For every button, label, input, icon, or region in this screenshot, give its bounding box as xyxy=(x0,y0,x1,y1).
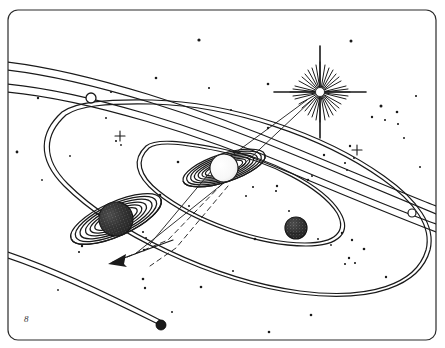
star-dot xyxy=(267,127,269,129)
star-dot xyxy=(37,97,39,99)
star-dot xyxy=(200,286,203,289)
star-dot xyxy=(288,210,290,212)
star-dot xyxy=(142,278,145,281)
star-dot xyxy=(245,195,247,197)
star-dot xyxy=(310,314,313,317)
star-dot xyxy=(171,311,173,313)
star-dot xyxy=(120,144,122,146)
star-dot xyxy=(396,111,399,114)
star-dot xyxy=(267,83,270,86)
star-dot xyxy=(351,239,353,241)
star-dot xyxy=(415,95,417,97)
star-dot xyxy=(254,238,257,241)
star-dot xyxy=(142,231,144,233)
star-dot xyxy=(177,161,180,164)
star-dot xyxy=(143,249,145,251)
star-dot xyxy=(155,77,158,80)
star-dot xyxy=(69,155,71,157)
star-dot xyxy=(346,169,348,171)
star-dot xyxy=(349,145,351,147)
star-dot xyxy=(232,270,234,272)
outer-marker-right xyxy=(408,209,416,217)
star-dot xyxy=(354,262,356,264)
star-dot xyxy=(330,244,332,246)
star-dot xyxy=(110,91,112,93)
star-dot xyxy=(380,105,383,108)
dark-moon xyxy=(285,217,307,239)
star-dot xyxy=(81,245,83,247)
star-dot xyxy=(397,123,399,125)
star-dot xyxy=(419,166,421,168)
star-dot xyxy=(323,154,325,156)
outer-marker-upper-left xyxy=(86,93,96,103)
star-dot xyxy=(41,179,43,181)
star-dot xyxy=(344,263,346,265)
star-dot xyxy=(268,331,271,334)
star-dot xyxy=(16,151,19,154)
star-dot xyxy=(115,140,117,142)
star-dot xyxy=(341,232,343,234)
star-dot xyxy=(276,185,278,187)
star-dot xyxy=(348,257,350,259)
signature-mark: 8 xyxy=(24,314,29,324)
star-dot xyxy=(275,190,277,192)
comet-head xyxy=(156,320,166,330)
star-dot xyxy=(105,117,107,119)
star-dot xyxy=(230,109,232,111)
star-dot xyxy=(403,137,405,139)
star-dot xyxy=(353,157,355,159)
star-dot xyxy=(188,205,190,207)
star-dot xyxy=(57,289,59,291)
star-dot xyxy=(208,87,210,89)
star-dot xyxy=(371,116,373,118)
star-dot xyxy=(159,194,162,197)
star-dot xyxy=(307,179,309,181)
planetary-system-illustration: 8 xyxy=(0,0,445,348)
star-dot xyxy=(363,248,366,251)
star-dot xyxy=(144,287,146,289)
star-dot xyxy=(385,276,387,278)
star-dot xyxy=(350,40,353,43)
star-dot xyxy=(145,237,147,239)
star-dot xyxy=(317,238,319,240)
star-dot xyxy=(384,119,386,121)
star-dot xyxy=(197,38,200,41)
star-dot xyxy=(78,251,80,253)
star-dot xyxy=(252,186,254,188)
star-dot xyxy=(311,175,313,177)
illustration-canvas: 8 xyxy=(0,0,445,348)
star-dot xyxy=(344,162,346,164)
